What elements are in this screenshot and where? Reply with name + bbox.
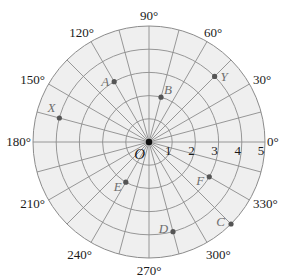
- point-marker-icon: [57, 115, 62, 120]
- angle-label-30: 30°: [253, 72, 271, 87]
- angle-label-150: 150°: [20, 72, 45, 87]
- radius-label-1: 1: [165, 143, 172, 158]
- angle-label-210: 210°: [20, 196, 45, 211]
- point-marker-icon: [207, 174, 212, 179]
- point-label: B: [164, 82, 172, 97]
- angle-label-270: 270°: [137, 263, 162, 277]
- angle-label-240: 240°: [67, 247, 92, 262]
- point-marker-icon: [170, 229, 175, 234]
- point-label: D: [158, 221, 169, 236]
- point-marker-icon: [158, 95, 163, 100]
- origin-label: O: [134, 146, 145, 162]
- point-label: E: [113, 179, 122, 194]
- point-marker-icon: [112, 79, 117, 84]
- point-label: F: [195, 173, 205, 188]
- angle-label-300: 300°: [206, 247, 231, 262]
- angle-label-180: 180°: [6, 134, 31, 149]
- angle-label-0: 0°: [267, 134, 279, 149]
- angle-label-60: 60°: [204, 25, 222, 40]
- radius-label-2: 2: [188, 143, 195, 158]
- point-marker-icon: [212, 74, 217, 79]
- point-marker-icon: [123, 180, 128, 185]
- point-label: X: [46, 100, 56, 115]
- angle-label-330: 330°: [253, 196, 278, 211]
- radius-label-4: 4: [235, 143, 242, 158]
- point-label: C: [216, 214, 225, 229]
- radius-label-3: 3: [211, 143, 218, 158]
- point-marker-icon: [228, 221, 233, 226]
- angle-label-120: 120°: [69, 25, 94, 40]
- angle-label-90: 90°: [140, 8, 158, 23]
- polar-diagram: 12345 0°30°60°90°120°150°180°210°240°270…: [0, 0, 285, 277]
- radius-label-5: 5: [258, 143, 265, 158]
- origin-dot-icon: [146, 139, 152, 145]
- polar-grid-canvas: 12345 0°30°60°90°120°150°180°210°240°270…: [0, 0, 285, 277]
- point-label: A: [100, 74, 109, 89]
